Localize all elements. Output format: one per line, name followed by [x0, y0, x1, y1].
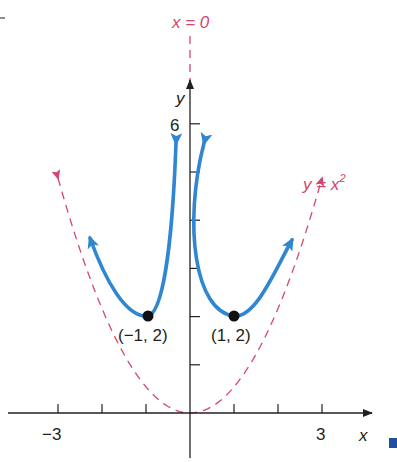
tick-label-neg3: −3: [42, 425, 61, 444]
chart-canvas: x = 0 y = x2 y x 6 −3 3 (−1, 2) (1, 2): [0, 0, 397, 462]
label-y-axis: y: [175, 89, 186, 108]
point-label-left: (−1, 2): [118, 326, 168, 345]
label-x-axis: x: [358, 426, 368, 445]
label-parabola: y = x2: [302, 172, 346, 194]
point-left-min: [143, 311, 154, 322]
point-right-min: [229, 311, 240, 322]
point-label-right: (1, 2): [211, 326, 251, 345]
label-vertical-asymptote: x = 0: [171, 13, 210, 32]
curve-right-branch: [194, 143, 292, 316]
tick-label-3: 3: [316, 425, 325, 444]
curve-left-branch: [90, 143, 176, 316]
end-marker: [389, 438, 397, 448]
tick-label-6: 6: [170, 116, 179, 135]
